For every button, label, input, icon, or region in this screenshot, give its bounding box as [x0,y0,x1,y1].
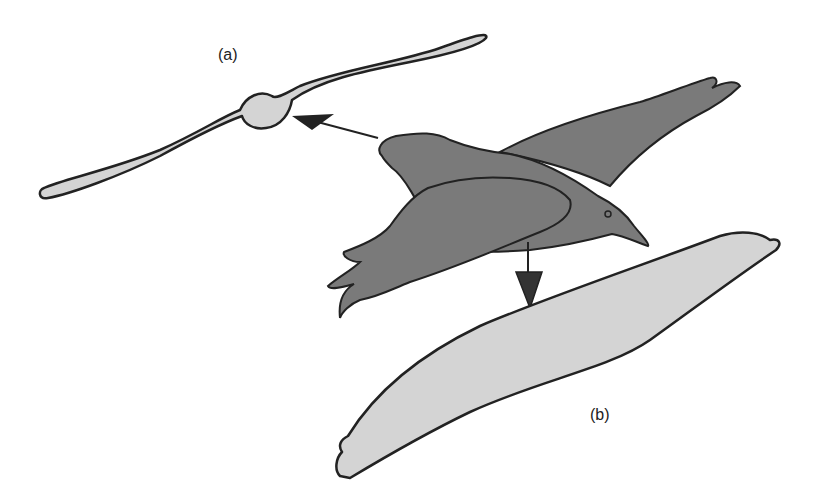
label-a: (a) [218,46,238,64]
arrow-to-front-view [292,114,378,138]
arrow-to-top-view [516,242,542,308]
bird-diagram [0,0,820,502]
label-b: (b) [590,406,610,424]
